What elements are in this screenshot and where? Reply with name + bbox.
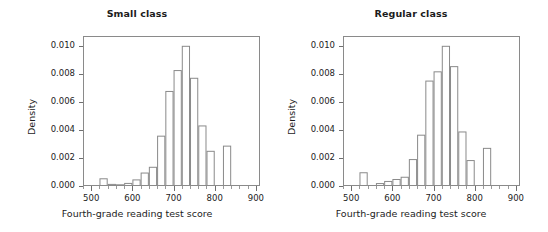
histogram-bar bbox=[116, 185, 123, 186]
y-axis-title-small-class: Density bbox=[26, 99, 37, 135]
histogram-bar bbox=[191, 78, 198, 185]
x-tick-mark-minor bbox=[231, 186, 232, 189]
histogram-bar bbox=[133, 180, 140, 186]
x-tick-label: 800 bbox=[455, 193, 495, 203]
x-tick-mark-minor bbox=[458, 186, 459, 189]
x-tick-mark-minor bbox=[116, 186, 117, 189]
x-tick-mark-major bbox=[256, 186, 257, 191]
x-tick-mark-minor bbox=[239, 186, 240, 189]
y-tick-label: 0.004 bbox=[299, 124, 335, 134]
y-tick-label: 0.008 bbox=[39, 68, 75, 78]
y-tick-label: 0.002 bbox=[299, 152, 335, 162]
histogram-bar bbox=[434, 72, 441, 186]
y-tick-label: 0.006 bbox=[299, 96, 335, 106]
y-tick-label: 0.000 bbox=[39, 180, 75, 190]
histogram-bar bbox=[418, 135, 425, 185]
histogram-bar bbox=[158, 136, 165, 185]
y-tick-label: 0.008 bbox=[299, 68, 335, 78]
y-tick-mark bbox=[339, 158, 343, 159]
x-tick-mark-minor bbox=[99, 186, 100, 189]
histogram-bar bbox=[199, 126, 206, 186]
y-axis-title-regular-class: Density bbox=[286, 99, 297, 135]
x-tick-mark-minor bbox=[83, 186, 84, 189]
x-tick-mark-major bbox=[434, 186, 435, 191]
y-tick-label: 0.000 bbox=[299, 180, 335, 190]
y-tick-mark bbox=[339, 130, 343, 131]
x-tick-mark-minor bbox=[198, 186, 199, 189]
histogram-bars-small-class bbox=[83, 36, 260, 186]
x-tick-mark-minor bbox=[368, 186, 369, 189]
histogram-bar bbox=[385, 181, 392, 185]
x-axis-title-regular-class: Fourth-grade reading test score bbox=[274, 208, 548, 219]
y-tick-mark bbox=[79, 74, 83, 75]
histogram-bar bbox=[451, 67, 458, 186]
x-tick-label: 500 bbox=[331, 193, 371, 203]
x-tick-mark-minor bbox=[248, 186, 249, 189]
x-tick-label: 900 bbox=[236, 193, 276, 203]
x-tick-mark-minor bbox=[108, 186, 109, 189]
x-tick-mark-major bbox=[91, 186, 92, 191]
x-tick-mark-major bbox=[132, 186, 133, 191]
x-tick-mark-minor bbox=[343, 186, 344, 189]
histogram-bar bbox=[108, 184, 115, 185]
histogram-bar bbox=[459, 132, 466, 186]
x-tick-mark-major bbox=[516, 186, 517, 191]
x-tick-mark-minor bbox=[384, 186, 385, 189]
x-tick-mark-minor bbox=[149, 186, 150, 189]
x-tick-label: 900 bbox=[496, 193, 536, 203]
histogram-bar bbox=[376, 184, 383, 186]
x-tick-mark-minor bbox=[165, 186, 166, 189]
y-tick-mark bbox=[339, 102, 343, 103]
histogram-bar bbox=[393, 179, 400, 185]
panel-regular-class: Regular class 0.0000.0020.0040.0060.0080… bbox=[274, 0, 548, 232]
x-tick-mark-minor bbox=[425, 186, 426, 189]
x-tick-mark-minor bbox=[466, 186, 467, 189]
histogram-bar bbox=[166, 91, 173, 185]
x-tick-mark-major bbox=[351, 186, 352, 191]
histogram-bar bbox=[426, 81, 433, 185]
histogram-bar bbox=[401, 177, 408, 185]
x-tick-mark-minor bbox=[401, 186, 402, 189]
x-tick-mark-minor bbox=[359, 186, 360, 189]
x-tick-mark-minor bbox=[442, 186, 443, 189]
x-tick-mark-minor bbox=[508, 186, 509, 189]
histogram-figure: Small class 0.0000.0020.0040.0060.0080.0… bbox=[0, 0, 548, 232]
x-tick-mark-major bbox=[475, 186, 476, 191]
x-tick-mark-minor bbox=[483, 186, 484, 189]
x-tick-mark-minor bbox=[141, 186, 142, 189]
histogram-bar bbox=[100, 179, 107, 186]
x-tick-label: 700 bbox=[154, 193, 194, 203]
x-tick-mark-minor bbox=[409, 186, 410, 189]
y-tick-mark bbox=[339, 74, 343, 75]
y-tick-label: 0.010 bbox=[39, 40, 75, 50]
x-tick-mark-minor bbox=[223, 186, 224, 189]
x-tick-mark-minor bbox=[206, 186, 207, 189]
histogram-bars-regular-class bbox=[343, 36, 520, 186]
y-tick-label: 0.010 bbox=[299, 40, 335, 50]
x-tick-label: 800 bbox=[195, 193, 235, 203]
y-tick-mark bbox=[79, 46, 83, 47]
histogram-bar bbox=[442, 46, 449, 185]
histogram-bar bbox=[182, 46, 189, 185]
y-tick-mark bbox=[79, 158, 83, 159]
y-tick-label: 0.002 bbox=[39, 152, 75, 162]
x-tick-mark-minor bbox=[417, 186, 418, 189]
x-tick-mark-major bbox=[174, 186, 175, 191]
y-tick-label: 0.006 bbox=[39, 96, 75, 106]
x-tick-label: 600 bbox=[372, 193, 412, 203]
histogram-bar bbox=[149, 167, 156, 185]
x-tick-mark-minor bbox=[124, 186, 125, 189]
x-tick-mark-minor bbox=[182, 186, 183, 189]
panel-title-regular-class: Regular class bbox=[274, 8, 548, 19]
x-tick-label: 700 bbox=[414, 193, 454, 203]
histogram-bar bbox=[174, 71, 181, 186]
x-tick-mark-minor bbox=[376, 186, 377, 189]
x-tick-label: 500 bbox=[71, 193, 111, 203]
x-tick-mark-minor bbox=[157, 186, 158, 189]
histogram-bar bbox=[125, 183, 132, 185]
histogram-bar bbox=[483, 148, 490, 185]
y-tick-label: 0.004 bbox=[39, 124, 75, 134]
histogram-bar bbox=[467, 161, 474, 186]
x-tick-mark-minor bbox=[499, 186, 500, 189]
panel-title-small-class: Small class bbox=[0, 8, 274, 19]
